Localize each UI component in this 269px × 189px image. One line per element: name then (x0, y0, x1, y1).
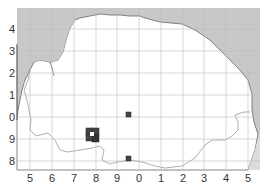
y-label: 3 (9, 45, 15, 57)
x-label: 7 (71, 172, 77, 184)
y-label: 2 (9, 67, 15, 79)
x-label: 2 (180, 172, 186, 184)
x-label: 5 (245, 172, 251, 184)
record-square (126, 156, 131, 161)
y-label: 4 (9, 23, 15, 35)
y-label: 9 (9, 133, 15, 145)
x-label: 8 (93, 172, 99, 184)
x-label: 9 (114, 172, 120, 184)
y-label: 8 (9, 155, 15, 167)
x-label: 3 (201, 172, 207, 184)
x-label: 4 (223, 172, 229, 184)
y-label: 1 (9, 89, 15, 101)
x-label: 1 (158, 172, 164, 184)
y-axis-labels: 4 3 2 1 0 9 8 (9, 23, 15, 167)
record-square-center (90, 132, 94, 136)
record-square (126, 112, 131, 117)
x-label: 0 (136, 172, 142, 184)
x-label: 6 (49, 172, 55, 184)
record-square (92, 135, 99, 142)
distribution-map: 5 6 7 8 9 0 1 2 3 4 5 4 3 2 1 0 9 8 (0, 0, 269, 189)
y-label: 0 (9, 111, 15, 123)
x-axis-labels: 5 6 7 8 9 0 1 2 3 4 5 (27, 172, 251, 184)
x-label: 5 (27, 172, 33, 184)
